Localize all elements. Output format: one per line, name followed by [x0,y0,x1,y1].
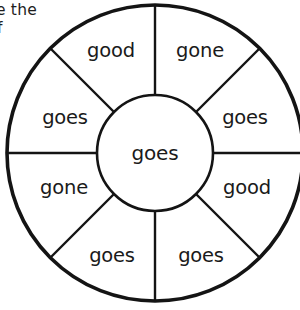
segment-label-bottom-left: goes [89,244,135,267]
segment-label-top-right: gone [176,39,224,62]
worksheet-canvas: e the f goes good [0,0,300,310]
hub-label: goes [132,141,179,165]
segment-label-right-lower: good [223,176,271,199]
segment-label-right-upper: goes [222,106,268,129]
segment-label-left-upper: goes [42,106,88,129]
word-wheel-diagram: goes good gone goes good goes goes gone … [0,0,300,310]
segment-label-left-lower: gone [40,176,88,199]
segment-label-top-left: good [87,39,135,62]
segment-label-bottom-right: goes [178,244,224,267]
